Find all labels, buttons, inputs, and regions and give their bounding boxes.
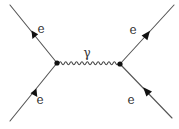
electron-line-top-left bbox=[10, 5, 57, 63]
feynman-diagram bbox=[0, 0, 179, 129]
electron-line-top-right bbox=[120, 5, 174, 64]
photon-propagator bbox=[59, 62, 118, 65]
label-electron-top-left: e bbox=[37, 23, 44, 35]
label-electron-bottom-left: e bbox=[36, 94, 43, 106]
vertex-right bbox=[117, 61, 122, 66]
label-photon: γ bbox=[83, 47, 90, 59]
electron-line-bottom-right bbox=[120, 64, 172, 118]
label-electron-bottom-right: e bbox=[127, 94, 134, 106]
vertex-left bbox=[54, 60, 59, 65]
label-electron-top-right: e bbox=[129, 24, 136, 36]
electron-line-bottom-left bbox=[10, 63, 57, 121]
